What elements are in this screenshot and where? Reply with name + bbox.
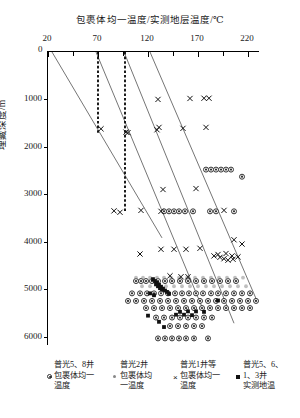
legend-marker-x-icon: × [173, 372, 180, 382]
point-ring-core [239, 300, 241, 302]
point-ring-core [163, 316, 165, 318]
point-ring-core [202, 292, 204, 294]
point-ring-core [241, 176, 243, 178]
point-square [160, 288, 164, 292]
point-x [215, 252, 220, 257]
point-dot [244, 284, 248, 288]
point-ring-core [210, 292, 212, 294]
y-tick-4000 [44, 242, 48, 243]
point-ring-core [187, 316, 189, 318]
legend-entry-1[interactable]: 普光5、8井包裹体均一温度 [47, 360, 94, 392]
point-ring-core [192, 210, 194, 212]
point-x [239, 241, 244, 246]
point-ring-core [193, 325, 195, 327]
point-dot [233, 276, 237, 280]
point-x [231, 237, 236, 242]
point-ring-core [220, 168, 222, 170]
y-tick-label-2000: 2000 [2, 141, 42, 151]
point-dot [212, 284, 216, 288]
point-ring-core [161, 307, 163, 309]
point-ring-core [203, 316, 205, 318]
point-x [138, 208, 143, 213]
point-square [182, 313, 186, 317]
point-x [203, 125, 208, 130]
point-ring-core [160, 292, 162, 294]
point-ring-core [171, 316, 173, 318]
chart-root: 包裹体均一温度/实测地层温度/℃ 0 埋藏深度/m 2070120170220 … [0, 0, 300, 418]
legend-entry-4[interactable]: 普光5、6、1、3井实测地温 [236, 360, 283, 392]
point-x [235, 254, 240, 259]
point-ring-core [225, 292, 227, 294]
point-square [190, 313, 194, 317]
legend-entry-3[interactable]: 普光1井等×包裹体均一温度 [173, 360, 220, 392]
point-ring-core [205, 168, 207, 170]
point-dot [204, 284, 208, 288]
point-dot [172, 284, 176, 288]
point-ring-core [225, 307, 227, 309]
point-square [157, 320, 161, 324]
y-tick-label-4000: 4000 [2, 236, 42, 246]
point-ring-core [231, 300, 233, 302]
point-ring-core [193, 337, 195, 339]
point-x [183, 247, 188, 252]
point-ring-core [163, 210, 165, 212]
point-ring-core [155, 316, 157, 318]
x-tick-120 [148, 52, 149, 57]
x-tick-label-20: 20 [43, 33, 52, 43]
point-x [217, 255, 222, 260]
point-ring-core [207, 337, 209, 339]
point-square [152, 293, 156, 297]
point-ring-core [167, 300, 169, 302]
point-ring-core [217, 292, 219, 294]
x-tick-220 [248, 52, 249, 57]
legend-head-4: 普光5、6、 [243, 360, 283, 371]
point-dot [162, 276, 166, 280]
legend-label2-4: 实测地温 [243, 381, 283, 392]
point-ring-core [199, 300, 201, 302]
point-dot [228, 284, 232, 288]
legend-head-3: 普光1井等 [180, 360, 220, 371]
trend-line-1 [52, 52, 162, 238]
point-ring-core [127, 300, 129, 302]
point-ring-core [157, 337, 159, 339]
plot-clip [48, 52, 259, 345]
point-dot [220, 284, 224, 288]
point-dot [155, 276, 159, 280]
x-tick-70 [98, 52, 99, 57]
point-ring-core [241, 292, 243, 294]
point-ring-core [177, 307, 179, 309]
point-ring-core [178, 337, 180, 339]
chart-legend: 普光5、8井包裹体均一温度普光2井包裹体均一温度普光1井等×包裹体均一温度普光5… [47, 360, 300, 416]
point-ring-core [195, 280, 197, 282]
point-ring-core [233, 292, 235, 294]
point-ring-core [195, 316, 197, 318]
point-square [186, 309, 190, 313]
x-axis-title: 包裹体均一温度/实测地层温度/℃ [0, 12, 300, 26]
legend-label-4: 1、3井 [243, 371, 267, 382]
point-ring-core [139, 292, 141, 294]
point-ring-core [143, 300, 145, 302]
point-x [98, 126, 103, 131]
point-ring-core [169, 307, 171, 309]
point-ring-core [179, 316, 181, 318]
point-ring-core [223, 300, 225, 302]
point-square [148, 291, 152, 295]
point-dot [188, 284, 192, 288]
point-ring-core [151, 300, 153, 302]
point-dot [201, 276, 205, 280]
y-tick-label-5000: 5000 [2, 283, 42, 293]
x-tick-label-70: 70 [93, 33, 102, 43]
point-ring-core [145, 280, 147, 282]
legend-entry-2[interactable]: 普光2井包裹体均一温度 [113, 360, 152, 392]
point-ring-core [174, 292, 176, 294]
point-x [180, 126, 185, 131]
x-tick-170 [198, 52, 199, 57]
point-ring-core [227, 280, 229, 282]
point-ring-core [135, 280, 137, 282]
data-layer [48, 52, 259, 345]
y-tick-2000 [44, 147, 48, 148]
y-tick-label-3000: 3000 [2, 188, 42, 198]
point-ring-core [159, 300, 161, 302]
point-ring-core [230, 168, 232, 170]
point-square [194, 309, 198, 313]
